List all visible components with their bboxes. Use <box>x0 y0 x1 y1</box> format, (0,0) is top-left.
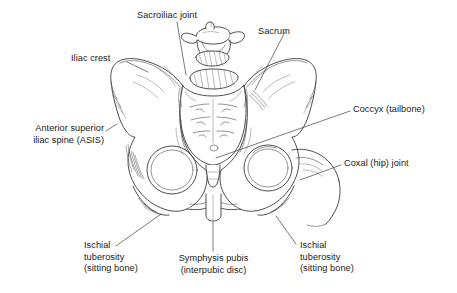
leader-asis <box>106 124 117 131</box>
label-ischial-tuberosity-right: Ischialtuberosity(sitting bone) <box>300 240 354 275</box>
label-ischial-left-line3: (sitting bone) <box>84 263 138 273</box>
sacral-promontory-disc <box>190 69 238 89</box>
label-ischial-tuberosity-left: Ischialtuberosity(sitting bone) <box>84 240 138 275</box>
label-coxal-joint: Coxal (hip) joint <box>344 158 409 170</box>
label-ischial-right-line3: (sitting bone) <box>300 263 354 273</box>
pelvis-diagram <box>0 0 457 293</box>
label-sacroiliac-joint: Sacroiliac joint <box>137 10 197 22</box>
label-ischial-right-line2: tuberosity <box>300 252 340 262</box>
label-asis: Anterior superioriliac spine (ASIS) <box>0 123 104 146</box>
intervertebral-disc-l5s1 <box>196 51 229 66</box>
label-coccyx: Coccyx (tailbone) <box>353 104 425 116</box>
pubic-symphysis-group <box>206 194 221 221</box>
coccyx-group <box>206 165 220 187</box>
label-iliac-crest: Iliac crest <box>71 53 110 65</box>
label-sacrum: Sacrum <box>258 26 290 38</box>
leader-sacroiliac-joint <box>177 22 186 75</box>
label-asis-line2: iliac spine (ASIS) <box>33 135 104 145</box>
label-ischial-left-line2: tuberosity <box>84 252 124 262</box>
label-ischial-left-line1: Ischial <box>84 240 110 250</box>
label-symphysis-line1: Symphysis pubis <box>179 253 249 263</box>
label-symphysis-line2: (interpubic disc) <box>181 265 247 275</box>
leader-coxal-joint <box>300 165 341 180</box>
label-symphysis-pubis: Symphysis pubis(interpubic disc) <box>166 253 261 276</box>
leader-ischial-right <box>276 216 296 244</box>
label-asis-line1: Anterior superior <box>35 123 104 133</box>
label-ischial-right-line1: Ischial <box>300 240 326 250</box>
